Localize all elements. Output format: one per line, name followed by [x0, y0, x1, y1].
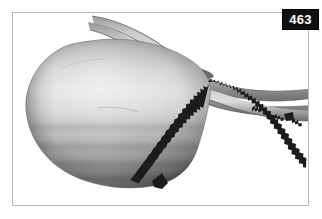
illustration-canvas [0, 0, 322, 219]
growth-band [20, 140, 220, 153]
figure-plate: 463 [0, 0, 322, 219]
plate-number-text: 463 [289, 13, 311, 26]
growth-band [20, 173, 220, 184]
plate-number-badge: 463 [282, 9, 319, 30]
growth-band [20, 120, 220, 134]
